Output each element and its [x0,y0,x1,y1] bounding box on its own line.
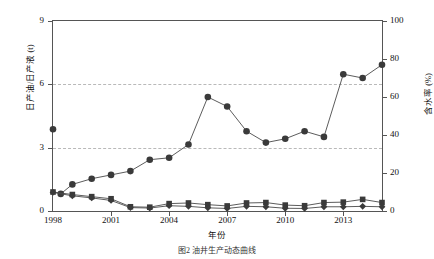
data-point-circle [321,134,328,141]
x-tick-mark [343,212,344,216]
y-tick-label-right: 80 [390,53,416,63]
y-tick-mark-right [383,21,387,22]
y-tick-label-left: 3 [22,142,44,152]
series-diamond [50,189,386,212]
y-tick-label-right: 20 [390,167,416,177]
data-point-circle [69,181,76,188]
x-tick-label: 1998 [33,215,73,225]
data-point-diamond [359,203,366,210]
y-tick-mark-right [383,135,387,136]
data-point-circle [282,136,289,143]
x-tick-mark [111,212,112,216]
y-tick-label-right: 60 [390,91,416,101]
y-tick-label-right: 40 [390,129,416,139]
x-tick-mark [285,212,286,216]
figure-container: 日产油/日产液 (t) 含水率 (%) 0369 020406080100 19… [0,0,434,259]
data-point-circle [127,168,134,175]
data-point-circle [50,126,57,133]
y-tick-mark-right [383,173,387,174]
series-circle [50,61,386,197]
x-tick-mark [227,212,228,216]
y-tick-label-left: 6 [22,78,44,88]
y-axis-right-label: 含水率 (%) [421,63,433,125]
data-point-circle [205,94,212,101]
y-tick-mark-right [383,211,387,212]
data-point-circle [359,75,366,82]
y-tick-mark-right [383,97,387,98]
y-tick-label-left: 0 [22,205,44,215]
series-line [53,192,382,208]
x-tick-label: 2010 [265,215,305,225]
x-tick-label: 2004 [149,215,189,225]
data-point-circle [243,128,250,135]
x-axis-label: 年份 [0,228,434,240]
data-point-circle [379,61,386,68]
y-tick-label-right: 0 [390,205,416,215]
x-tick-label: 2001 [91,215,131,225]
y-tick-label-right: 100 [390,15,416,25]
data-point-circle [146,156,153,163]
data-point-circle [88,175,95,182]
data-point-circle [166,155,173,162]
data-series-layer [53,21,382,211]
data-point-circle [224,103,231,110]
x-tick-label: 2013 [323,215,363,225]
x-tick-mark [169,212,170,216]
y-tick-label-left: 9 [22,15,44,25]
plot-area [52,20,383,212]
data-point-circle [108,172,115,179]
data-point-square [360,197,366,203]
data-point-circle [301,128,308,135]
x-tick-label: 2007 [207,215,247,225]
data-point-circle [340,71,347,78]
data-point-circle [263,139,270,146]
y-tick-mark-right [383,59,387,60]
figure-caption: 图2 油井生产动态曲线 [0,244,434,255]
data-point-circle [185,141,192,148]
